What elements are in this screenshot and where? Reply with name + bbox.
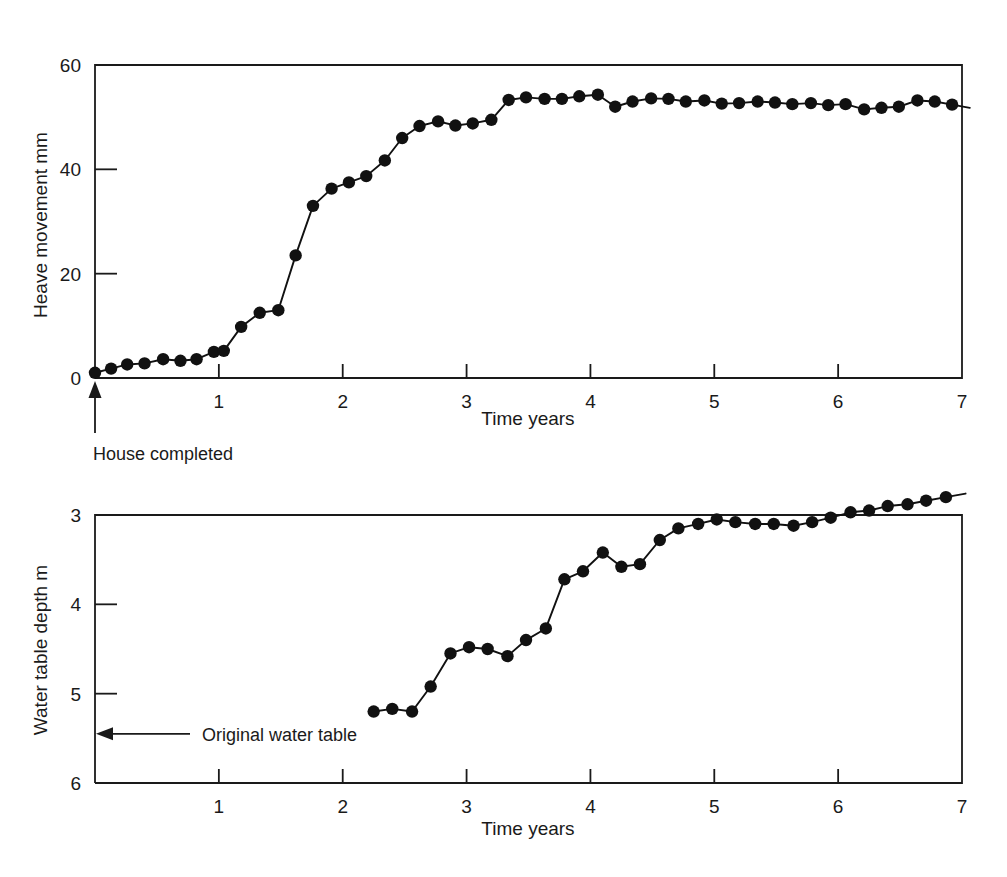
data-point-marker bbox=[615, 561, 627, 573]
y-axis-tick-label: 4 bbox=[70, 594, 81, 615]
x-axis-tick-label: 5 bbox=[709, 391, 720, 412]
data-point-marker bbox=[749, 518, 761, 530]
data-point-marker bbox=[121, 358, 133, 370]
x-axis-tick-label: 4 bbox=[585, 391, 596, 412]
data-line bbox=[374, 494, 966, 712]
data-point-marker bbox=[920, 495, 932, 507]
data-point-marker bbox=[858, 103, 870, 115]
data-point-marker bbox=[805, 97, 817, 109]
water-table-depth-chart-panel: 34561234567Time yearsWater table depth m… bbox=[30, 491, 967, 839]
original-water-table-label: Original water table bbox=[202, 725, 357, 745]
data-point-marker bbox=[911, 94, 923, 106]
data-point-marker bbox=[485, 114, 497, 126]
data-point-marker bbox=[626, 95, 638, 107]
data-point-marker bbox=[463, 641, 475, 653]
data-point-marker bbox=[424, 680, 436, 692]
data-point-marker bbox=[325, 182, 337, 194]
data-point-marker bbox=[716, 97, 728, 109]
x-axis-tick-label: 7 bbox=[957, 391, 968, 412]
data-point-marker bbox=[558, 573, 570, 585]
data-point-marker bbox=[343, 176, 355, 188]
data-point-marker bbox=[768, 518, 780, 530]
data-point-marker bbox=[729, 516, 741, 528]
y-axis-tick-label: 3 bbox=[70, 505, 81, 526]
data-point-marker bbox=[386, 703, 398, 715]
data-point-marker bbox=[844, 506, 856, 518]
x-axis-tick-label: 6 bbox=[833, 796, 844, 817]
data-point-marker bbox=[105, 362, 117, 374]
data-point-marker bbox=[272, 304, 284, 316]
data-point-marker bbox=[946, 98, 958, 110]
data-point-marker bbox=[520, 91, 532, 103]
data-line bbox=[95, 95, 970, 373]
x-axis-title: Time years bbox=[481, 818, 574, 839]
x-axis-tick-label: 5 bbox=[709, 796, 720, 817]
x-axis-tick-label: 3 bbox=[461, 391, 472, 412]
data-point-marker bbox=[592, 89, 604, 101]
x-axis-tick-label: 6 bbox=[833, 391, 844, 412]
data-point-marker bbox=[413, 120, 425, 132]
data-point-marker bbox=[597, 546, 609, 558]
data-point-marker bbox=[379, 154, 391, 166]
data-point-marker bbox=[692, 518, 704, 530]
data-point-marker bbox=[863, 504, 875, 516]
data-point-marker bbox=[839, 98, 851, 110]
house-completed-label: House completed bbox=[93, 444, 233, 464]
data-point-marker bbox=[654, 534, 666, 546]
x-axis-tick-label: 1 bbox=[214, 796, 225, 817]
data-point-marker bbox=[396, 132, 408, 144]
data-point-marker bbox=[235, 321, 247, 333]
y-axis-tick-label: 0 bbox=[70, 368, 81, 389]
data-point-marker bbox=[806, 516, 818, 528]
data-point-marker bbox=[360, 170, 372, 182]
data-point-marker bbox=[289, 249, 301, 261]
data-point-marker bbox=[157, 353, 169, 365]
heave-movement-chart-panel: 02040601234567Time yearsHeave movement m… bbox=[30, 55, 970, 464]
false bbox=[89, 381, 102, 398]
data-point-marker bbox=[538, 93, 550, 105]
x-axis-tick-label: 3 bbox=[461, 796, 472, 817]
y-axis-tick-label: 5 bbox=[70, 684, 81, 705]
x-axis-tick-label: 4 bbox=[585, 796, 596, 817]
data-point-marker bbox=[662, 93, 674, 105]
data-point-marker bbox=[432, 115, 444, 127]
plot-frame bbox=[95, 65, 962, 378]
data-point-marker bbox=[609, 101, 621, 113]
y-axis-tick-label: 60 bbox=[60, 55, 81, 76]
data-point-marker bbox=[672, 522, 684, 534]
data-point-marker bbox=[769, 96, 781, 108]
data-point-marker bbox=[929, 95, 941, 107]
data-point-marker bbox=[940, 491, 952, 503]
data-point-marker bbox=[825, 511, 837, 523]
data-point-marker bbox=[751, 95, 763, 107]
data-point-marker bbox=[893, 101, 905, 113]
data-point-marker bbox=[698, 94, 710, 106]
x-axis-title: Time years bbox=[481, 408, 574, 429]
false bbox=[96, 727, 113, 740]
data-point-marker bbox=[520, 634, 532, 646]
data-point-marker bbox=[645, 92, 657, 104]
two-panel-line-chart-figure: 02040601234567Time yearsHeave movement m… bbox=[0, 0, 1007, 877]
x-axis-tick-label: 1 bbox=[214, 391, 225, 412]
data-point-marker bbox=[367, 705, 379, 717]
data-point-marker bbox=[881, 500, 893, 512]
data-point-marker bbox=[634, 558, 646, 570]
data-point-marker bbox=[875, 102, 887, 114]
y-axis-title: Heave movement mm bbox=[30, 132, 51, 318]
data-point-marker bbox=[577, 565, 589, 577]
x-axis-tick-label: 2 bbox=[337, 796, 348, 817]
y-axis-tick-label: 6 bbox=[70, 773, 81, 794]
data-point-marker bbox=[573, 90, 585, 102]
data-point-marker bbox=[733, 97, 745, 109]
data-point-marker bbox=[556, 93, 568, 105]
data-point-marker bbox=[680, 95, 692, 107]
data-point-marker bbox=[444, 647, 456, 659]
data-point-marker bbox=[307, 200, 319, 212]
y-axis-tick-label: 40 bbox=[60, 159, 81, 180]
data-point-marker bbox=[89, 367, 101, 379]
data-point-marker bbox=[502, 94, 514, 106]
data-point-marker bbox=[481, 643, 493, 655]
data-point-marker bbox=[467, 117, 479, 129]
data-point-marker bbox=[822, 99, 834, 111]
data-point-marker bbox=[449, 119, 461, 131]
